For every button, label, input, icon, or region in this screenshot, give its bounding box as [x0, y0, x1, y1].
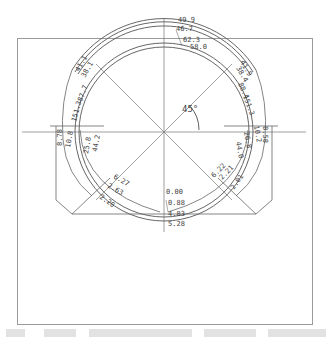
right-wall-labels: 8.58 10.2 26.8 44.0 [234, 125, 269, 159]
label-inv-2: 4.83 [168, 210, 185, 218]
invert-labels: 0.00 0.88 4.83 5.28 [166, 188, 185, 228]
reference-axes [22, 18, 306, 232]
label-inv-3: 5.28 [168, 220, 185, 228]
label-rw-3: 44.0 [234, 141, 245, 159]
label-lw-1: 10.8 [64, 130, 75, 148]
label-inv-1: 0.88 [168, 199, 185, 207]
label-ll-2: 2.20 [98, 193, 116, 209]
label-rw-1: 10.2 [252, 125, 263, 143]
label-lr-2: 2.01 [229, 173, 245, 191]
label-lw-3: 44.2 [91, 134, 102, 152]
figure-caption: faint / illegible Chinese caption text a… [6, 329, 326, 341]
cross-section-diagram: 45° 49.9 46.7 62.3 58.0 41.1 38.1 87.7 1… [0, 0, 332, 343]
label-ur-3: 151.3 [241, 94, 256, 117]
label-inv-0: 0.00 [166, 188, 183, 196]
label-lw-0: 8.78 [56, 129, 64, 146]
label-crown-0: 49.9 [178, 16, 195, 24]
label-crown-1: 46.7 [176, 25, 193, 33]
label-crown-3: 58.0 [190, 43, 207, 51]
angle-label: 45° [182, 104, 198, 114]
label-ul-2: 87.7 [76, 84, 89, 103]
caption-text: faint / illegible Chinese caption text a… [6, 329, 326, 337]
drawing-frame [18, 39, 313, 325]
